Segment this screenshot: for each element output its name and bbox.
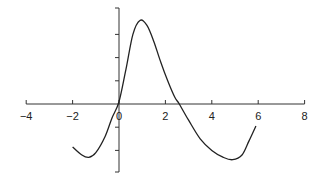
series-line (73, 20, 256, 160)
x-tick-label: −4 (20, 110, 33, 122)
x-tick-label: 0 (116, 110, 122, 122)
x-tick-label: −2 (66, 110, 79, 122)
x-tick-label: 4 (209, 110, 215, 122)
x-tick-label: 8 (302, 110, 308, 122)
axes (26, 8, 304, 172)
line-chart: −4−202468 (0, 0, 320, 182)
x-tick-labels: −4−202468 (20, 110, 308, 122)
x-tick-label: 6 (255, 110, 261, 122)
x-tick-label: 2 (162, 110, 168, 122)
